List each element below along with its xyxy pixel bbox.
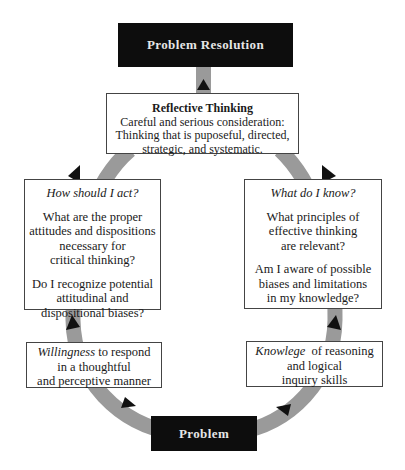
knowledge-line-2: and logical xyxy=(247,359,382,374)
connector-stem xyxy=(196,66,211,94)
what-do-i-know-heading: What do I know? xyxy=(245,186,381,201)
left-paragraph-1: What are the proper attitudes and dispos… xyxy=(25,210,160,268)
willingness-rest: to respond xyxy=(95,345,151,359)
problem-resolution-label: Problem Resolution xyxy=(147,37,264,53)
willingness-line-1: Willingness to respond xyxy=(27,345,161,360)
reflective-thinking-node: Reflective Thinking Careful and serious … xyxy=(106,93,299,154)
problem-resolution-node: Problem Resolution xyxy=(118,23,293,67)
right-paragraph-1: What principles of effective thinking ar… xyxy=(245,210,381,254)
left-p1-line: What are the proper xyxy=(25,210,160,225)
reflective-line-3: strategic, and systematic. xyxy=(107,143,298,157)
willingness-node: Willingness to respond in a thoughtful a… xyxy=(26,342,162,388)
knowledge-line-1: Knowlege of reasoning xyxy=(247,344,382,359)
reflective-line-2: Thinking that is puposeful, directed, xyxy=(107,129,298,143)
knowledge-emphasis: Knowlege xyxy=(255,344,305,358)
problem-label: Problem xyxy=(179,426,229,442)
right-paragraph-2: Am I aware of possible biases and limita… xyxy=(245,262,381,306)
knowledge-node: Knowlege of reasoning and logical inquir… xyxy=(246,341,383,387)
left-p2-line: attitudinal and xyxy=(25,291,160,306)
right-p2-line: biases and limitations xyxy=(245,277,381,292)
right-p1-line: are relevant? xyxy=(245,239,381,254)
reflective-line-1: Careful and serious consideration: xyxy=(107,116,298,130)
willingness-emphasis: Willingness xyxy=(37,345,95,359)
right-p2-line: Am I aware of possible xyxy=(245,262,381,277)
willingness-line-3: and perceptive manner xyxy=(27,374,161,389)
left-paragraph-2: Do I recognize potential attitudinal and… xyxy=(25,277,160,321)
knowledge-line-3: inquiry skills xyxy=(247,373,382,388)
willingness-line-2: in a thoughtful xyxy=(27,360,161,375)
problem-node: Problem xyxy=(151,416,257,451)
arrow-left-bottom xyxy=(121,397,136,408)
how-should-i-act-node: How should I act? What are the proper at… xyxy=(24,179,161,310)
right-p1-line: What principles of xyxy=(245,210,381,225)
what-do-i-know-node: What do I know? What principles of effec… xyxy=(244,179,382,309)
right-p1-line: effective thinking xyxy=(245,224,381,239)
knowledge-rest: of reasoning xyxy=(305,344,373,358)
left-p2-line: Do I recognize potential xyxy=(25,277,160,292)
left-p1-line: critical thinking? xyxy=(25,253,160,268)
how-should-i-act-heading: How should I act? xyxy=(25,186,160,201)
left-p1-line: attitudes and dispositions xyxy=(25,224,160,239)
left-p1-line: necessary for xyxy=(25,239,160,254)
left-p2-line: dispositional biases? xyxy=(25,306,160,321)
reflective-thinking-title: Reflective Thinking xyxy=(107,102,298,116)
right-p2-line: in my knowledge? xyxy=(245,291,381,306)
